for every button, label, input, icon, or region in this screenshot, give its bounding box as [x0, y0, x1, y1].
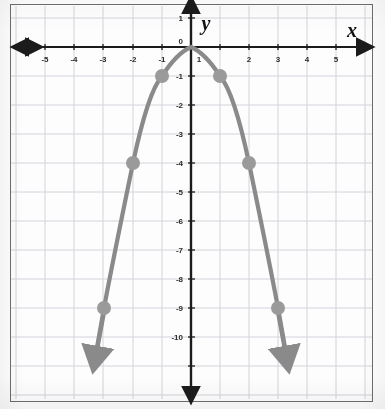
x-tick-label: 3 — [276, 55, 281, 64]
x-tick-label: 1 — [197, 55, 202, 64]
data-point — [97, 301, 111, 315]
y-tick-label-origin: 0 — [179, 37, 184, 46]
x-tick-label: -5 — [41, 55, 49, 64]
x-tick-label: 2 — [247, 55, 252, 64]
x-tick-label: -3 — [99, 55, 107, 64]
y-tick-label: 1 — [179, 14, 184, 23]
data-point — [126, 156, 140, 170]
y-tick-label: -2 — [176, 101, 184, 110]
y-tick-label: -7 — [176, 246, 184, 255]
x-tick-label: 4 — [305, 55, 310, 64]
data-point — [271, 301, 285, 315]
data-point — [242, 156, 256, 170]
y-tick-label: -1 — [176, 72, 184, 81]
y-tick-label: -5 — [176, 188, 184, 197]
x-tick-label: -4 — [70, 55, 78, 64]
data-point — [155, 69, 169, 83]
y-tick-label: -6 — [176, 217, 184, 226]
x-axis-label: x — [346, 19, 357, 41]
x-tick-label: -1 — [158, 55, 166, 64]
graph-image: -5 -4 -3 -2 -1 1 2 3 4 5 1 0 -1 -2 -3 -4… — [0, 0, 385, 409]
y-tick-label: -8 — [176, 275, 184, 284]
y-tick-label: -3 — [176, 130, 184, 139]
y-tick-label: -10 — [171, 333, 183, 342]
x-tick-label: -2 — [129, 55, 137, 64]
data-point — [213, 69, 227, 83]
coordinate-plane: -5 -4 -3 -2 -1 1 2 3 4 5 1 0 -1 -2 -3 -4… — [0, 0, 385, 409]
y-tick-label: -4 — [176, 159, 184, 168]
y-tick-label: -9 — [176, 304, 184, 313]
x-tick-label: 5 — [334, 55, 339, 64]
y-axis-label: y — [200, 12, 211, 35]
